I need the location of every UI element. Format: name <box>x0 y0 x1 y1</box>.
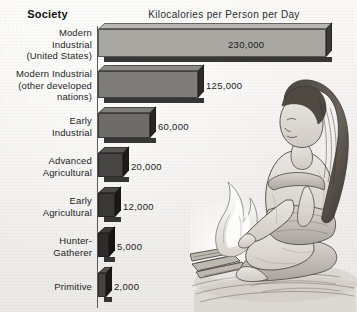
row-label-line: Industrial <box>0 39 92 51</box>
row-label-line: Agricultural <box>0 167 92 179</box>
row-label-line: Advanced <box>0 155 92 167</box>
bar-front-face <box>98 193 115 217</box>
bar-value-label: 12,000 <box>123 201 154 212</box>
row-label: EarlyIndustrial <box>0 115 92 138</box>
bar-value-label: 60,000 <box>158 121 189 132</box>
bar-drop-shadow <box>104 217 121 222</box>
bar-drop-shadow <box>104 297 112 302</box>
bar-front-face <box>98 153 123 177</box>
bar-value-label: 230,000 <box>228 39 264 50</box>
row-label-line: Agricultural <box>0 207 92 219</box>
row-label: Hunter-Gatherer <box>0 235 92 258</box>
bar-drop-shadow <box>104 138 156 143</box>
bar-drop-shadow <box>104 257 115 262</box>
category-column-header: Society <box>0 8 95 20</box>
bar <box>98 193 115 217</box>
bar <box>98 71 198 98</box>
row-label: ModernIndustrial(United States) <box>0 27 92 62</box>
bar-front-face <box>98 273 106 297</box>
row-label: Primitive <box>0 281 92 293</box>
row-label-line: Primitive <box>0 281 92 293</box>
bar-value-label: 2,000 <box>114 281 139 292</box>
chart-title: Kilocalories per Person per Day <box>104 9 344 20</box>
row-label-line: Early <box>0 115 92 127</box>
bar-drop-shadow <box>104 57 332 62</box>
row-label-line: Hunter- <box>0 235 92 247</box>
bar-front-face <box>98 71 198 98</box>
bar <box>98 233 109 257</box>
bar-value-label: 125,000 <box>206 80 242 91</box>
bar <box>98 153 123 177</box>
row-label-line: Early <box>0 195 92 207</box>
row-label-line: Industrial <box>0 127 92 139</box>
bar-front-face <box>98 233 109 257</box>
row-label-line: Gatherer <box>0 247 92 259</box>
row-label: EarlyAgricultural <box>0 195 92 218</box>
row-label-line: nations) <box>0 91 92 103</box>
row-label-line: (other developed <box>0 80 92 92</box>
row-label-line: Modern Industrial <box>0 68 92 80</box>
bar-value-label: 5,000 <box>117 241 142 252</box>
bar <box>98 29 326 57</box>
bar <box>98 273 106 297</box>
bar-front-face <box>98 113 150 138</box>
row-label-line: Modern <box>0 27 92 39</box>
bar-front-face <box>98 29 326 57</box>
chart-figure: Society Kilocalories per Person per Day … <box>0 0 357 312</box>
bar-drop-shadow <box>104 98 204 103</box>
row-label: Modern Industrial(other developednations… <box>0 68 92 103</box>
bar-value-label: 20,000 <box>131 161 162 172</box>
bar-drop-shadow <box>104 177 129 182</box>
bar <box>98 113 150 138</box>
row-label: AdvancedAgricultural <box>0 155 92 178</box>
row-label-line: (United States) <box>0 50 92 62</box>
